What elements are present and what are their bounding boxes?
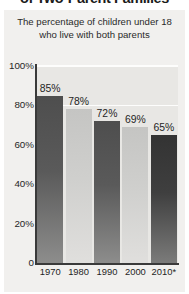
bar-value-label: 85%	[33, 83, 67, 94]
bar	[66, 109, 92, 263]
bar-value-label: 78%	[62, 96, 96, 107]
y-tick-label: 60%	[2, 139, 34, 150]
bar	[37, 96, 63, 263]
bar	[94, 121, 120, 263]
y-tick-label: 0	[2, 257, 34, 268]
x-tick-label: 2010*	[147, 266, 181, 277]
bar	[151, 135, 177, 263]
y-tick-label: 80%	[2, 99, 34, 110]
y-tick-label: 20%	[2, 218, 34, 229]
bar	[122, 127, 148, 263]
y-tick-label: 40%	[2, 178, 34, 189]
gridline	[36, 65, 178, 67]
bar-value-label: 65%	[147, 122, 181, 133]
y-tick-label: 100%	[2, 60, 34, 71]
plot-area	[36, 66, 178, 263]
chart-subtitle: The percentage of children under 18 who …	[10, 16, 179, 41]
y-axis-line	[35, 64, 37, 265]
chart-figure: of Two-Parent Families The percentage of…	[0, 0, 189, 294]
y-axis-ticks: 020%40%60%80%100%	[0, 0, 34, 294]
x-axis-line	[35, 263, 179, 265]
